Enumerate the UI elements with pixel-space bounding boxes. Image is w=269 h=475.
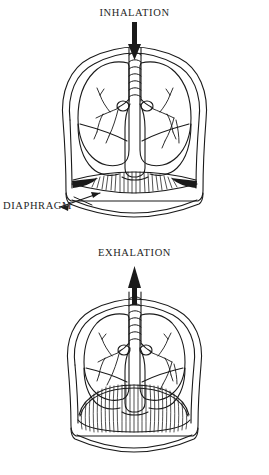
chest-wall-inner	[69, 53, 199, 188]
chest-wall-inner-left	[75, 365, 78, 423]
lung-left-lower	[78, 124, 119, 175]
diaphragm-flattened-bottom	[72, 184, 197, 193]
lung-left	[78, 62, 129, 166]
bronchial-tree-right	[150, 333, 177, 390]
figure-exhalation: EXHALATION	[0, 240, 269, 475]
diaphragm-label: DIAPHRAGM	[3, 200, 72, 211]
exhalation-illustration	[0, 240, 269, 475]
bronchial-tree-right	[151, 88, 179, 148]
bronchus-main-left	[118, 343, 129, 352]
chest-wall-inner	[74, 305, 194, 423]
lung-left-fissure	[80, 124, 127, 141]
lung-right-lower	[150, 124, 191, 175]
bronchus-main-right	[141, 99, 153, 108]
lung-left-fissure	[86, 368, 127, 382]
chest-wall-outer	[62, 47, 206, 201]
bronchus-main-left	[117, 99, 129, 108]
bronchial-tree-left	[94, 88, 119, 143]
lung-right-fissure	[142, 124, 189, 141]
chest-wall-inner-left	[70, 120, 72, 188]
figure-inhalation: INHALATION	[0, 0, 269, 240]
bronchus-main-right	[141, 343, 152, 352]
diaphragm-striations	[81, 385, 187, 432]
trachea-rings	[129, 53, 141, 97]
